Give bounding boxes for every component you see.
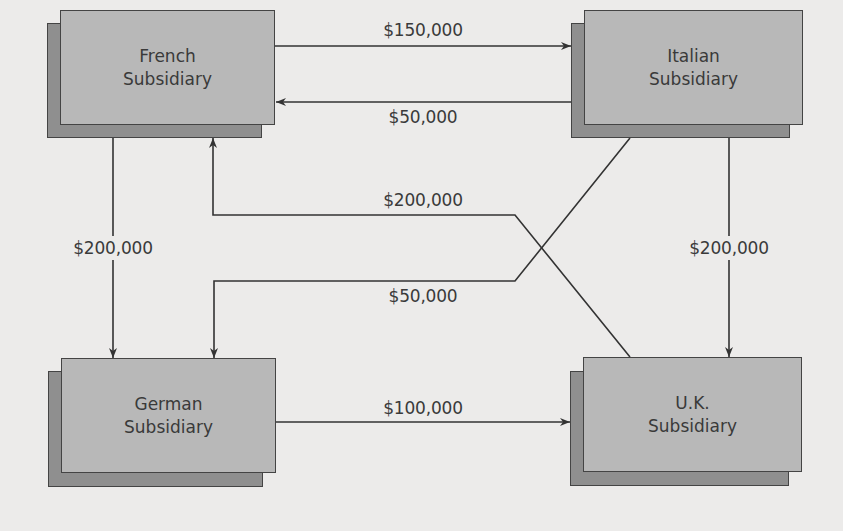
amount-german-uk: $100,000: [383, 398, 463, 418]
amount-uk-french: $200,000: [383, 190, 463, 210]
german-subsidiary-box: German Subsidiary: [61, 358, 276, 473]
node-label-line1: Italian: [667, 45, 720, 68]
flow-uk-french: [213, 138, 630, 357]
amount-italian-german: $50,000: [389, 286, 458, 306]
uk-subsidiary-box: U.K. Subsidiary: [583, 357, 802, 472]
node-label-line2: Subsidiary: [123, 68, 212, 91]
amount-italian-french: $50,000: [389, 107, 458, 127]
node-label-line2: Subsidiary: [124, 416, 213, 439]
node-label-line1: U.K.: [675, 392, 709, 415]
node-label-line1: French: [139, 45, 196, 68]
french-subsidiary-box: French Subsidiary: [60, 10, 275, 125]
amount-french-italian: $150,000: [383, 20, 463, 40]
italian-subsidiary-box: Italian Subsidiary: [584, 10, 803, 125]
node-label-line1: German: [134, 393, 202, 416]
flow-italian-german: [214, 138, 630, 358]
amount-french-german: $200,000: [70, 236, 156, 260]
amount-italian-uk: $200,000: [686, 236, 772, 260]
node-label-line2: Subsidiary: [648, 415, 737, 438]
node-label-line2: Subsidiary: [649, 68, 738, 91]
